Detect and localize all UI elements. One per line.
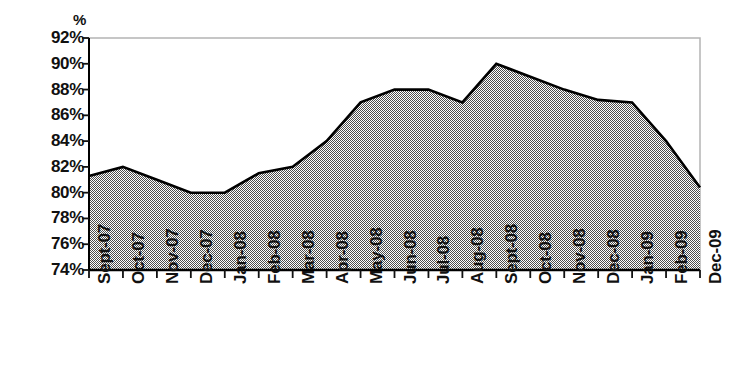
x-axis-tick-label: Jul-08 — [435, 236, 452, 284]
x-axis-tick-label: Sept-07 — [96, 224, 113, 284]
area-chart: % 92%90%88%86%84%82%80%78%76%74% Sept-07… — [0, 0, 742, 374]
x-axis-tick-label: Mar-08 — [300, 230, 317, 284]
x-axis-tick-label: Oct-07 — [130, 232, 147, 284]
x-axis-tick-label: Oct-08 — [537, 232, 554, 284]
x-axis-tick-label: Feb-08 — [266, 230, 283, 284]
x-axis-tick-label: Dec-09 — [707, 229, 724, 284]
x-axis-tick-label: Dec-08 — [605, 229, 622, 284]
x-axis-tick-label: Nov-07 — [164, 229, 181, 285]
x-axis-tick-label: Jan-09 — [639, 231, 656, 284]
x-axis-tick-label: Jan-08 — [232, 231, 249, 284]
x-axis-tick-label: Nov-08 — [571, 229, 588, 285]
x-axis-tick-label: Aug-08 — [469, 228, 486, 284]
x-axis-tick-label: Jun-08 — [402, 230, 419, 284]
x-axis-tick-label: May-08 — [368, 228, 385, 284]
x-axis-tick-labels: Sept-07Oct-07Nov-07Dec-07Jan-08Feb-08Mar… — [0, 0, 742, 374]
x-axis-tick-label: Feb-09 — [673, 230, 690, 284]
x-axis-tick-label: Sept-08 — [503, 224, 520, 284]
x-axis-tick-label: Dec-07 — [198, 229, 215, 284]
x-axis-tick-label: Apr-08 — [334, 231, 351, 284]
